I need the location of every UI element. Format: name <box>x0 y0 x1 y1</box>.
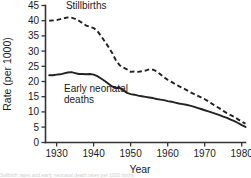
y-tick-label-30: 30 <box>28 46 40 57</box>
y-tick-label-25: 25 <box>28 61 40 72</box>
y-axis-title: Rate (per 1000) <box>1 37 13 111</box>
y-tick-label-40: 40 <box>28 15 40 26</box>
y-tick-label-20: 20 <box>28 76 40 87</box>
x-tick-label-1960: 1960 <box>157 148 180 159</box>
early-neonatal-deaths-series-label-line1: Early neonatal <box>64 83 128 94</box>
y-tick-label-15: 15 <box>28 91 40 102</box>
stillbirths-neonatal-deaths-chart: 45 40 35 30 25 20 15 10 5 0 1930 <box>0 0 251 178</box>
stillbirths-series-label: Stillbirths <box>66 0 107 11</box>
chart-canvas: 45 40 35 30 25 20 15 10 5 0 1930 <box>0 0 251 178</box>
stillbirths-line <box>49 17 245 123</box>
x-tick-label-1980: 1980 <box>231 148 251 159</box>
y-tick-label-10: 10 <box>28 106 40 117</box>
y-tick-label-5: 5 <box>33 122 39 133</box>
x-axis-tick-labels: 1930 1940 1950 1960 1970 1980 <box>45 148 251 159</box>
x-tick-label-1930: 1930 <box>45 148 68 159</box>
plot-area: 45 40 35 30 25 20 15 10 5 0 1930 <box>1 0 251 175</box>
y-axis-tick-labels: 45 40 35 30 25 20 15 10 5 0 <box>28 0 40 148</box>
y-tick-label-0: 0 <box>33 137 39 148</box>
early-neonatal-deaths-series-label-line2: deaths <box>64 94 94 105</box>
x-tick-label-1950: 1950 <box>119 148 142 159</box>
x-tick-label-1940: 1940 <box>82 148 105 159</box>
caption-sliver: Stillbirth rates and early neonatal deat… <box>0 173 251 178</box>
x-tick-label-1970: 1970 <box>194 148 217 159</box>
y-tick-label-35: 35 <box>28 30 40 41</box>
y-tick-label-45: 45 <box>28 0 40 11</box>
